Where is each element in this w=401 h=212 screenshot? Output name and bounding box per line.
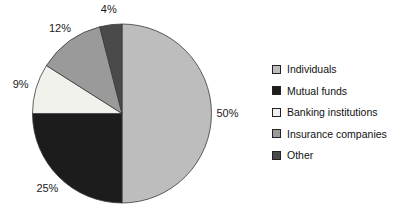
- legend-label: Mutual funds: [287, 86, 347, 97]
- legend-label: Banking institutions: [287, 107, 377, 118]
- legend-swatch-individuals: [272, 65, 281, 74]
- legend-item-insurance-companies: Insurance companies: [272, 129, 387, 140]
- slice-label: 50%: [216, 107, 238, 119]
- legend-item-individuals: Individuals: [272, 64, 387, 75]
- pie-chart-figure: 50%25%9%12%4% Individuals Mutual funds B…: [0, 0, 401, 212]
- legend-label: Other: [287, 150, 313, 161]
- legend-item-mutual-funds: Mutual funds: [272, 86, 387, 97]
- legend: Individuals Mutual funds Banking institu…: [272, 64, 387, 161]
- legend-item-other: Other: [272, 150, 387, 161]
- legend-label: Insurance companies: [287, 129, 387, 140]
- pie-chart: 50%25%9%12%4%: [0, 0, 250, 212]
- legend-swatch-insurance-companies: [272, 129, 281, 138]
- slice-label: 9%: [13, 78, 29, 90]
- legend-label: Individuals: [287, 64, 337, 75]
- pie-slice-individuals: [122, 24, 211, 203]
- legend-swatch-banking-institutions: [272, 108, 281, 117]
- legend-swatch-other: [272, 151, 281, 160]
- slice-label: 4%: [101, 3, 117, 15]
- legend-item-banking-institutions: Banking institutions: [272, 107, 387, 118]
- slice-label: 12%: [49, 22, 71, 34]
- legend-swatch-mutual-funds: [272, 86, 281, 95]
- slice-label: 25%: [36, 182, 58, 194]
